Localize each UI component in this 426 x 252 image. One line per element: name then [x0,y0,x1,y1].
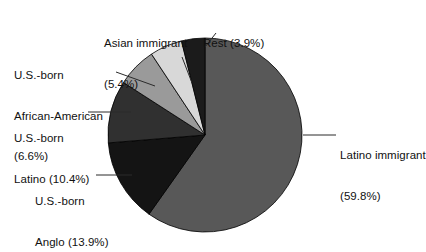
label-rest-line1: Rest (3.9%) [203,37,264,51]
label-asian-immigrant-line2: (5.4%) [104,78,187,92]
label-asian-immigrant: Asian immigrant (5.4%) [104,10,187,105]
label-latino-immigrant: Latino immigrant (59.8%) [340,122,426,217]
label-usborn-anglo-line2: Anglo (13.9%) [35,236,109,250]
label-african-american-line1: U.S.-born [14,69,103,83]
label-latino-immigrant-line2: (59.8%) [340,190,426,204]
label-rest: Rest (3.9%) [203,10,264,64]
label-usborn-anglo-line1: U.S.-born [35,195,109,209]
label-us-born-anglo: U.S.-born Anglo (13.9%) [35,168,109,252]
label-latino-immigrant-line1: Latino immigrant [340,149,426,163]
label-usborn-latino-line1: U.S.-born [14,132,90,146]
label-asian-immigrant-line1: Asian immigrant [104,37,187,51]
